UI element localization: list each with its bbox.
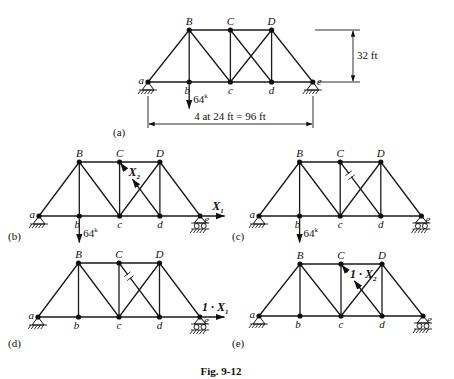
label-D: D xyxy=(155,147,164,159)
node-D xyxy=(157,159,162,164)
node-D xyxy=(157,260,162,265)
svg-text:1 · X1: 1 · X1 xyxy=(202,300,229,316)
svg-text:64k: 64k xyxy=(193,92,208,105)
node-B xyxy=(187,27,192,32)
label-D: D xyxy=(377,249,386,261)
node-C xyxy=(116,260,121,265)
label-D: D xyxy=(376,147,385,159)
label-B: B xyxy=(297,249,304,261)
node-C xyxy=(338,159,343,164)
truss-panel-d: BCDabcde1 · X1(d) xyxy=(8,248,229,350)
node-C xyxy=(228,27,233,32)
label-d: d xyxy=(379,318,385,330)
load-arrow: 64k xyxy=(79,219,98,242)
label-a: a xyxy=(250,308,256,320)
node-D xyxy=(269,27,274,32)
panel-label-b: (b) xyxy=(8,230,21,243)
label-C: C xyxy=(337,249,345,261)
truss-panel-c: BCDabcde64k(c) xyxy=(232,147,430,243)
label-d: d xyxy=(157,218,163,230)
svg-text:1 · X2: 1 · X2 xyxy=(350,267,377,283)
label-C: C xyxy=(227,15,235,27)
label-a: a xyxy=(139,74,145,86)
label-B: B xyxy=(75,248,82,260)
label-C: C xyxy=(115,248,123,260)
svg-text:64k: 64k xyxy=(83,226,98,239)
label-c: c xyxy=(338,218,343,230)
label-b: b xyxy=(295,318,301,330)
height-label: 32 ft xyxy=(357,49,377,61)
svg-text:X1: X1 xyxy=(211,199,224,215)
node-B xyxy=(76,260,81,265)
panel-label-a: (a) xyxy=(113,126,126,139)
label-c: c xyxy=(117,319,122,331)
label-a: a xyxy=(30,208,36,220)
label-d: d xyxy=(157,319,163,331)
node-B xyxy=(297,261,302,266)
load-arrow: 64k xyxy=(300,219,319,242)
panel-label-e: (e) xyxy=(232,337,245,350)
svg-text:X2: X2 xyxy=(128,165,141,181)
label-C: C xyxy=(337,147,345,159)
label-c: c xyxy=(117,218,122,230)
figure-caption: Fig. 9-12 xyxy=(201,365,242,377)
span-label: 4 at 24 ft = 96 ft xyxy=(194,110,266,122)
truss-figure: BCDabcde64k(a)X2BCDabcde64kX1(b)BCDabcde… xyxy=(0,0,454,379)
panel-label-c: (c) xyxy=(232,230,245,243)
node-D xyxy=(379,261,384,266)
label-B: B xyxy=(296,147,303,159)
label-e: e xyxy=(317,75,322,87)
label-c: c xyxy=(228,84,233,96)
node-B xyxy=(297,159,302,164)
svg-text:64k: 64k xyxy=(304,226,319,239)
label-C: C xyxy=(116,147,124,159)
node-D xyxy=(378,159,383,164)
label-b: b xyxy=(74,319,80,331)
label-D: D xyxy=(267,15,276,27)
label-a: a xyxy=(29,309,35,321)
node-B xyxy=(77,159,82,164)
label-d: d xyxy=(378,218,384,230)
label-c: c xyxy=(339,318,344,330)
label-d: d xyxy=(269,84,275,96)
label-B: B xyxy=(186,15,193,27)
label-a: a xyxy=(250,208,256,220)
label-B: B xyxy=(76,147,83,159)
truss-panel-b: X2BCDabcde64kX1(b) xyxy=(8,147,224,243)
span-dimension: 4 at 24 ft = 96 ft xyxy=(148,96,313,128)
node-C xyxy=(338,261,343,266)
height-dimension: 32 ft xyxy=(315,30,377,82)
panel-label-d: (d) xyxy=(8,337,21,350)
label-D: D xyxy=(155,248,164,260)
truss-panel-e: 1 · X2BCDabcde(e) xyxy=(232,249,432,350)
node-C xyxy=(117,159,122,164)
load-arrow: 64k xyxy=(189,85,208,108)
